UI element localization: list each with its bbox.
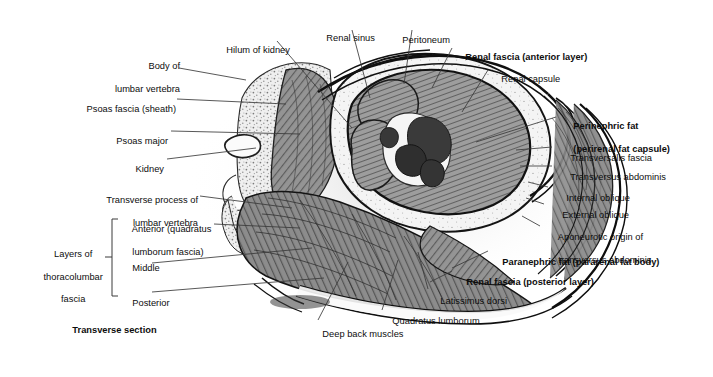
label-line1: Anterior (quadratus xyxy=(132,224,212,234)
label-line1: Body of xyxy=(148,61,180,71)
label-renal-capsule: Renal capsule xyxy=(491,63,560,97)
label-line1: Transverse process of xyxy=(106,195,198,205)
label-layers-of-thoracolumbar-fascia: Layers of thoracolumbar fascia xyxy=(30,238,106,316)
bracket-title-line3: fascia xyxy=(61,294,85,304)
section-label-text: Transverse section xyxy=(72,325,156,335)
label-text: Renal sinus xyxy=(326,33,375,43)
label-renal-sinus: Renal sinus xyxy=(316,22,375,56)
figure-root: Body of lumbar vertebra Psoas fascia (sh… xyxy=(0,0,713,377)
label-line1: External oblique xyxy=(562,210,629,220)
label-line1: Perinephric fat xyxy=(573,121,638,131)
label-text: Peritoneum xyxy=(402,35,450,45)
bracket-title-line2: thoracolumbar xyxy=(43,272,102,282)
bracket-title-line1: Layers of xyxy=(54,249,92,259)
figure-caption-bar: FIGURE 2.47. Transverse section of kidne… xyxy=(0,338,713,368)
label-kidney: Kidney xyxy=(60,153,164,187)
label-text: Hilum of kidney xyxy=(226,45,290,55)
label-text: Renal capsule xyxy=(501,74,560,84)
label-text: Renal fascia (anterior layer) xyxy=(465,52,587,62)
label-line1: Kidney xyxy=(136,164,164,174)
label-hilum-of-kidney: Hilum of kidney xyxy=(216,34,290,68)
label-line1: Psoas major xyxy=(116,136,168,146)
label-line1: Transversus abdominis xyxy=(570,172,666,182)
label-line1: Posterior xyxy=(132,298,169,308)
label-line1: Aponeurotic origin of xyxy=(558,232,643,242)
label-line1: Middle xyxy=(132,263,159,273)
label-middle: Middle xyxy=(122,252,212,286)
label-peritoneum: Peritoneum xyxy=(392,24,450,58)
label-psoas-fascia-sheath: Psoas fascia (sheath) xyxy=(10,93,176,127)
label-text: Quadratus lumborum xyxy=(392,316,479,326)
label-line1: Psoas fascia (sheath) xyxy=(87,104,176,114)
